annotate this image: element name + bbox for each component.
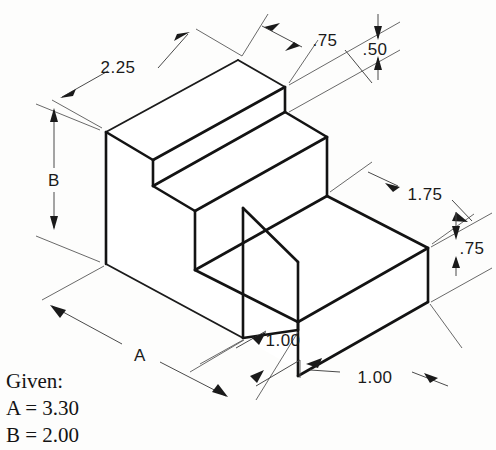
dimension-label-A: A xyxy=(134,346,146,365)
given-line-B: B = 2.00 xyxy=(6,423,79,447)
drawing-canvas: 2.25 B .75 xyxy=(0,0,496,450)
given-heading: Given: xyxy=(6,369,63,393)
ext-line-225-right xyxy=(196,29,242,56)
dimension-label-075-top: .75 xyxy=(312,31,337,50)
arrow-175-left xyxy=(385,183,400,192)
dimension-075-right: .75 xyxy=(431,212,492,302)
ext-line-075r-bottom xyxy=(431,268,492,302)
ext-line-B-bottom xyxy=(36,236,100,262)
given-line-A: A = 3.30 xyxy=(6,396,79,420)
ext-line-050-bottom xyxy=(289,50,400,112)
ext-line-A-right xyxy=(190,340,244,372)
isometric-drawing: 2.25 B .75 xyxy=(0,0,496,450)
dimension-050: .50 xyxy=(289,14,400,112)
arrow-175-right xyxy=(452,212,468,222)
given-block: Given: A = 3.30 B = 2.00 xyxy=(6,369,79,447)
ext-line-100l-a xyxy=(200,340,243,364)
ext-line-075t-left xyxy=(242,14,268,56)
dimension-label-100-left: 1.00 xyxy=(265,331,300,350)
dimension-label-100-front: 1.00 xyxy=(357,368,392,387)
arrow-A-right xyxy=(212,384,228,397)
dimension-B: B xyxy=(36,104,100,262)
dimension-label-050: .50 xyxy=(362,40,387,59)
dimension-label-175: 1.75 xyxy=(407,185,442,204)
arrow-075t-right xyxy=(285,42,300,51)
dimension-label-B: B xyxy=(48,171,60,190)
ext-line-B-top xyxy=(36,104,100,130)
arrow-100l-bottom xyxy=(250,370,264,383)
arrow-B-bottom xyxy=(50,216,58,230)
ext-line-100f-right xyxy=(430,304,462,348)
dimension-label-225: 2.25 xyxy=(100,58,135,77)
dim-line-100f-a xyxy=(310,370,340,372)
dimension-label-075-right: .75 xyxy=(459,239,484,258)
arrow-225-right xyxy=(174,32,190,41)
arrow-A-left xyxy=(50,305,66,318)
ext-line-A-left xyxy=(42,266,104,300)
dim-line-175-a xyxy=(368,172,398,186)
arrow-075r-top xyxy=(452,226,460,240)
arrow-075t-left xyxy=(264,23,280,31)
dim-line-225-b xyxy=(158,34,188,68)
ext-line-175-left xyxy=(330,162,372,192)
